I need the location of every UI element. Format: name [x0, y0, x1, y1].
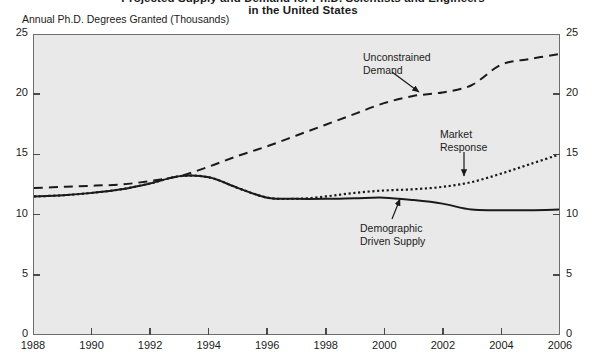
annotation-arrows	[0, 0, 606, 360]
chart-figure: Projected Supply and Demand for Ph.D. Sc…	[0, 0, 606, 360]
arrow-unconstrained-demand	[392, 72, 419, 92]
arrow-demographic-driven-supply	[392, 199, 400, 219]
